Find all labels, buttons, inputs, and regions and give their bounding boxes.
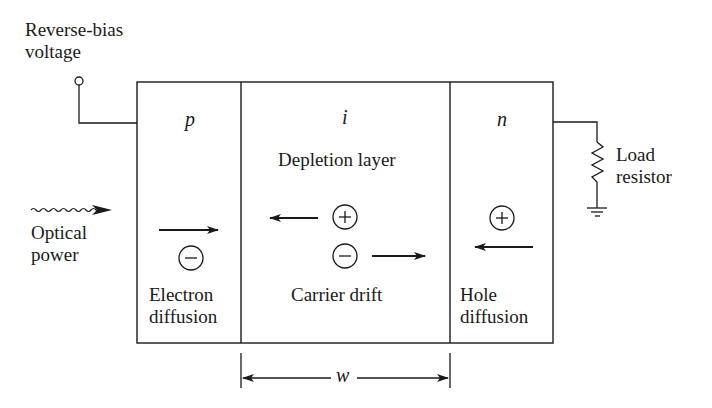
n-region-symbol: n — [497, 108, 507, 130]
load-resistor-icon — [553, 122, 603, 208]
optical-power-arrow-icon — [31, 205, 112, 215]
bias-terminal — [75, 77, 137, 123]
hole-diffusion-label: Hole diffusion — [460, 284, 528, 328]
depletion-layer-label: Depletion layer — [278, 149, 396, 171]
bias-label: Reverse-bias voltage — [25, 19, 123, 63]
ground-icon — [587, 208, 607, 216]
p-region-symbol: p — [185, 108, 195, 130]
optical-power-label: Optical power — [31, 222, 87, 266]
p-electron-icon — [179, 246, 203, 270]
n-hole-icon — [490, 206, 514, 230]
electron-diffusion-label: Electron diffusion — [149, 284, 217, 328]
i-region-symbol: i — [342, 106, 348, 128]
i-hole-icon — [333, 205, 357, 229]
load-resistor-label: Load resistor — [616, 144, 672, 188]
carrier-drift-label: Carrier drift — [291, 284, 382, 306]
width-symbol: w — [336, 364, 349, 386]
i-electron-icon — [333, 244, 357, 268]
